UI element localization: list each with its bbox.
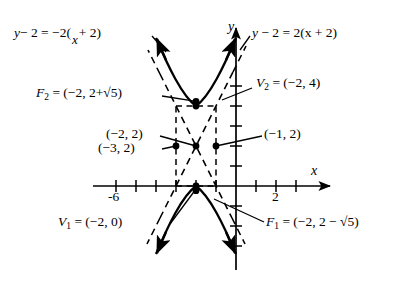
focus-2-name: F [36, 85, 44, 100]
focus-1-value: = (−2, 2 − √5) [282, 214, 358, 229]
leader-v2 [222, 88, 252, 100]
graph-canvas [0, 0, 398, 283]
asymptote-right-rest: − 2 = 2(x + 2) [261, 25, 337, 40]
vertex-1-subscript: 1 [66, 221, 71, 231]
focus-2-value: = (−2, 2+√5) [52, 85, 122, 100]
vertex-1-value: = (−2, 0) [74, 214, 122, 229]
x-axis-label: x [311, 164, 317, 178]
vertex-1-name: V [58, 214, 66, 229]
vertex-1-label: V1 = (−2, 0) [58, 215, 122, 232]
leader-right-point [216, 136, 262, 146]
vertex-2-name: V [256, 75, 264, 90]
asymptote-right-equation: y − 2 = 2(x + 2) [252, 26, 337, 40]
asymptote-left-equation: y− 2 = −2(x+ 2) [14, 26, 101, 40]
center-point-label: (−2, 2) [106, 127, 143, 141]
asymptote-left-mid: − 2 = −2( [20, 25, 71, 40]
leader-asymptote-left [152, 36, 166, 52]
left-point-label: (−3, 2) [98, 141, 135, 155]
leader-f1 [214, 199, 264, 222]
focus-2-label: F2 = (−2, 2+√5) [36, 86, 122, 103]
asymptote-right-y: y [252, 25, 258, 40]
focus-2-subscript: 2 [44, 92, 49, 102]
focus-1-subscript: 1 [274, 221, 279, 231]
x-tick-label-2: 2 [272, 190, 279, 204]
asymptote-left-x: x [71, 33, 79, 46]
leader-f2 [162, 96, 196, 101]
vertex-2-value: = (−2, 4) [272, 75, 320, 90]
hyperbola-lower-branch [156, 186, 236, 254]
hyperbola-upper-branch [156, 38, 236, 106]
x-tick-label--6: -6 [108, 190, 119, 204]
hyperbola-figure: y− 2 = −2(x+ 2) y − 2 = 2(x + 2) F2 = (−… [0, 0, 398, 283]
vertex-2-subscript: 2 [264, 82, 269, 92]
right-point-label: (−1, 2) [264, 127, 301, 141]
vertex-2-label: V2 = (−2, 4) [256, 76, 320, 93]
focus-1-label: F1 = (−2, 2 − √5) [266, 215, 359, 232]
y-axis-label: y [228, 20, 234, 34]
focus-1-name: F [266, 214, 274, 229]
leader-v1 [170, 189, 196, 224]
asymptote-left-tail: + 2) [79, 25, 101, 40]
